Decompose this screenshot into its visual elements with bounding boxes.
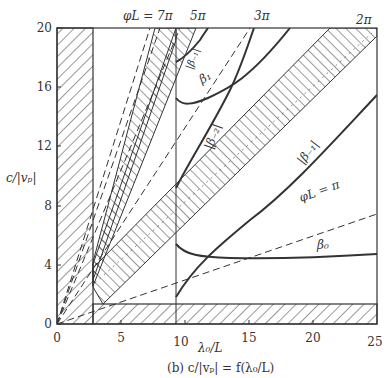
x-tick: 10 [173,335,188,349]
phi-pi-label: φL = π [297,177,342,205]
phi-3pi-label: 3π [254,9,271,23]
y-tick-labels: 20 16 12 8 4 0 [37,21,53,331]
beta-0-curve [176,244,377,258]
bottom-hatched-region [93,304,377,324]
x-tick: 5 [117,331,125,345]
y-axis-label: c/|vₚ| [6,171,36,185]
figure-caption: (b) c/|vₚ| = f(λ₀/L) [167,361,274,375]
beta-m1-label: |β₋₁| [294,138,321,167]
y-tick: 20 [37,21,52,35]
beta-1-label: β₁ [196,69,214,87]
x-tick: 25 [367,335,382,349]
phi-2pi-label: 2π [355,13,373,27]
y-tick: 12 [37,139,52,153]
phi-5pi-label: 5π [190,9,207,23]
y-tick: 4 [44,258,52,272]
x-tick: 20 [305,331,320,345]
y-tick: 16 [37,80,52,94]
y-tick: 8 [44,199,52,213]
phi-7pi-label: φL = 7π [123,9,174,23]
dispersion-diagram: 20 16 12 8 4 0 0 5 10 15 20 25 λ₀/L c/|v… [0,0,386,378]
beta-0-label: β₀ [316,238,329,252]
x-tick: 15 [241,331,256,345]
y-tick: 0 [44,317,52,331]
x-axis-label: λ₀/L [197,341,222,355]
x-tick: 0 [53,331,61,345]
